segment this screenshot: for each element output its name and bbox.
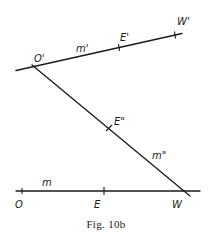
tick-w-prime <box>175 32 176 39</box>
line-m-double-prime <box>32 65 190 196</box>
figure-caption: Fig. 10b <box>86 218 125 230</box>
label-m: m <box>42 177 52 188</box>
label-w: W <box>172 199 183 210</box>
label-m-prime: m' <box>76 43 89 54</box>
label-o: O <box>15 199 23 210</box>
label-w-prime: W' <box>177 16 190 27</box>
label-o-prime: O' <box>34 53 45 64</box>
label-e-double-prime: E" <box>114 116 125 127</box>
label-m-double-prime: m" <box>152 150 166 161</box>
figure-10b-diagram: O' m' E' W' E" m" m O E W Fig. 10b <box>0 0 212 240</box>
tick-e-prime <box>119 44 120 51</box>
label-e-prime: E' <box>120 32 129 43</box>
line-m-prime <box>16 34 182 71</box>
label-e: E <box>94 199 101 210</box>
